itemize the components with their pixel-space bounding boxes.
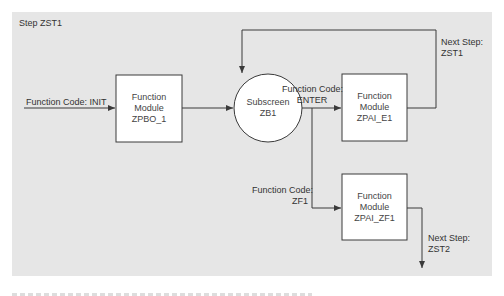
- arrow-next-zst2: [407, 208, 422, 268]
- node-zpbo-1: Function Module ZPBO_1: [116, 92, 182, 125]
- init-label: Function Code: INIT: [26, 97, 107, 108]
- next-step-zst1: Next Step: ZST1: [441, 37, 483, 59]
- enter-label: Function Code: ENTER: [282, 84, 342, 106]
- node-zpai-e1: Function Module ZPAI_E1: [342, 91, 407, 124]
- arrow-zf1: [312, 108, 341, 208]
- step-title: Step ZST1: [19, 18, 62, 29]
- cropped-caption: [12, 290, 492, 296]
- next-step-zst2: Next Step: ZST2: [428, 233, 470, 255]
- node-zpai-zf1: Function Module ZPAI_ZF1: [342, 191, 407, 224]
- zf1-label: Function Code: ZF1: [252, 185, 308, 207]
